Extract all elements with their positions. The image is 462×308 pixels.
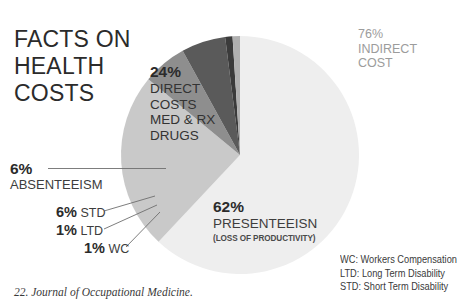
abbreviation-legend: WC: Workers Compensation LTD: Long Term … bbox=[340, 253, 457, 294]
title-line-1: FACTS ON bbox=[14, 26, 164, 53]
std-percent: 6% bbox=[56, 204, 77, 220]
absenteeism-name: ABSENTEEISM bbox=[10, 177, 102, 192]
label-direct-costs: 24% DIRECT COSTS MED & RX DRUGS bbox=[150, 63, 215, 143]
source-citation: 22. Journal of Occupational Medicine. bbox=[14, 286, 193, 298]
label-wc: 1% WC bbox=[84, 240, 129, 256]
title-line-2: HEALTH bbox=[14, 53, 164, 80]
std-name: STD bbox=[80, 206, 105, 220]
direct-costs-percent: 24% bbox=[150, 63, 215, 81]
presenteeism-subtitle: (LOSS OF PRODUCTIVITY) bbox=[213, 232, 316, 244]
indirect-cost-percent: 76% bbox=[358, 27, 417, 42]
infographic-canvas: FACTS ON HEALTH COSTS 76% INDIRECT COST … bbox=[0, 0, 462, 308]
wc-name: WC bbox=[108, 242, 129, 256]
direct-costs-line-3: MED & RX bbox=[150, 112, 215, 128]
label-ltd: 1% LTD bbox=[56, 222, 103, 238]
label-presenteeism: 62% PRESENTEEISN (LOSS OF PRODUCTIVITY) bbox=[213, 198, 332, 244]
direct-costs-line-4: DRUGS bbox=[150, 128, 215, 144]
legend-row-wc: WC: Workers Compensation bbox=[340, 253, 457, 267]
wc-percent: 1% bbox=[84, 240, 105, 256]
indirect-cost-line-2: COST bbox=[358, 56, 417, 71]
title-line-3: COSTS bbox=[14, 80, 164, 107]
indirect-cost-line-1: INDIRECT bbox=[358, 42, 417, 57]
label-indirect-cost: 76% INDIRECT COST bbox=[358, 27, 417, 71]
legend-row-ltd: LTD: Long Term Disability bbox=[340, 267, 457, 281]
direct-costs-line-1: DIRECT bbox=[150, 81, 215, 97]
ltd-name: LTD bbox=[80, 224, 103, 238]
label-std: 6% STD bbox=[56, 204, 105, 220]
direct-costs-line-2: COSTS bbox=[150, 97, 215, 113]
ltd-percent: 1% bbox=[56, 222, 77, 238]
presenteeism-name: PRESENTEEISN bbox=[213, 216, 332, 232]
absenteeism-percent: 6% bbox=[10, 160, 102, 177]
presenteeism-percent: 62% bbox=[213, 198, 332, 216]
label-absenteeism: 6% ABSENTEEISM bbox=[10, 160, 102, 192]
page-title: FACTS ON HEALTH COSTS bbox=[14, 26, 164, 107]
legend-row-std: STD: Short Term Disability bbox=[340, 280, 457, 294]
